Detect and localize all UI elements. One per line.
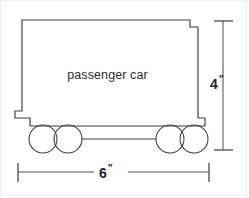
width-dimension-group	[18, 163, 209, 182]
width-dimension-unit: ”	[108, 163, 113, 174]
width-dimension-value: 6	[99, 165, 107, 181]
height-dimension-unit: ”	[219, 74, 224, 85]
wheel-front-left	[29, 125, 57, 153]
height-dimension-label: 4”	[210, 74, 224, 92]
wheels-group	[29, 125, 208, 153]
wheel-front-right	[54, 125, 82, 153]
height-dimension-value: 4	[210, 76, 218, 92]
passenger-car-drawing	[0, 0, 249, 198]
diagram-canvas: passenger car 4” 6”	[0, 0, 249, 198]
car-body-label: passenger car	[0, 68, 215, 82]
width-dimension-label: 6”	[99, 163, 113, 181]
